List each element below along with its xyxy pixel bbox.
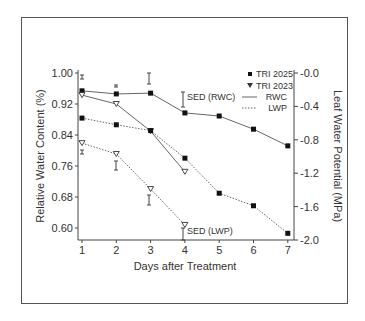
x-tick-label: 1 — [79, 244, 85, 256]
x-tick-label: 4 — [182, 244, 188, 256]
square-marker — [251, 127, 256, 132]
y2-tick-label: -1.6 — [300, 201, 319, 213]
y2-tick-label: -1.2 — [300, 167, 319, 179]
y-tick-label: 0.92 — [52, 98, 73, 110]
square-marker — [285, 231, 290, 236]
y2-axis-label: Leaf Water Potential (MPa) — [332, 90, 344, 222]
square-marker — [80, 116, 85, 121]
y-tick-label: 0.68 — [52, 191, 73, 203]
chart: 1.000.920.840.760.680.601234567-0.0-0.4-… — [0, 0, 365, 321]
plot-area: SED (RWC)SED (LWP) — [79, 73, 290, 240]
square-marker — [217, 114, 222, 119]
triangle-marker — [113, 151, 119, 156]
sed-lwp-label: SED (LWP) — [187, 226, 233, 236]
square-marker — [285, 143, 290, 148]
x-tick-label: 7 — [285, 244, 291, 256]
legend-label: TRI 2025 — [256, 69, 293, 79]
square-marker — [251, 203, 256, 208]
y-tick-label: 1.00 — [52, 67, 73, 79]
triangle-marker — [79, 93, 85, 98]
y-axis-label: Relative Water Content (%) — [34, 89, 46, 222]
y2-tick-label: -2.0 — [300, 234, 319, 246]
y2-tick-label: -0.4 — [300, 100, 319, 112]
square-marker — [182, 110, 187, 115]
series-line — [82, 118, 288, 233]
square-marker — [182, 156, 187, 161]
x-axis-label: Days after Treatment — [134, 260, 237, 272]
square-marker — [148, 128, 153, 133]
legend-label: LWP — [268, 103, 287, 113]
square-marker — [217, 191, 222, 196]
triangle-marker — [79, 141, 85, 146]
square-marker — [114, 91, 119, 96]
y2-tick-label: -0.8 — [300, 134, 319, 146]
x-tick-label: 6 — [250, 244, 256, 256]
y2-tick-label: -0.0 — [300, 67, 319, 79]
square-marker — [148, 91, 153, 96]
x-tick-label: 5 — [216, 244, 222, 256]
legend: TRI 2025TRI 2023RWCLWP — [242, 69, 293, 113]
triangle-marker — [182, 169, 188, 174]
legend-triangle-icon — [247, 83, 253, 88]
y-tick-label: 0.84 — [52, 129, 73, 141]
sed-rwc-label: SED (RWC) — [187, 92, 235, 102]
x-tick-label: 3 — [148, 244, 154, 256]
legend-label: RWC — [266, 92, 288, 102]
legend-label: TRI 2023 — [256, 81, 293, 91]
series-line — [82, 95, 185, 172]
y-tick-label: 0.76 — [52, 160, 73, 172]
x-tick-label: 2 — [113, 244, 119, 256]
series-line — [82, 91, 288, 146]
legend-square-icon — [248, 72, 252, 76]
y-tick-label: 0.60 — [52, 222, 73, 234]
series-line — [82, 143, 185, 225]
square-marker — [114, 122, 119, 127]
